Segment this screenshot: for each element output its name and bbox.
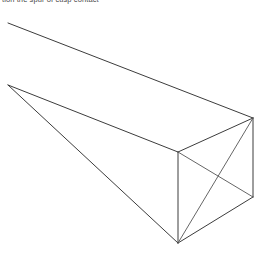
receding-edges xyxy=(8,23,253,243)
end-face-lower-right-edge xyxy=(178,197,253,243)
middle-receding-edge xyxy=(8,85,178,152)
end-face-diagonals xyxy=(178,118,253,243)
end-face-diagonal-a xyxy=(178,118,253,243)
lower-receding-edge xyxy=(8,85,178,243)
end-face-diagonal-b xyxy=(178,152,253,197)
end-face-upper-left-edge xyxy=(178,118,253,152)
top-receding-edge xyxy=(8,23,253,118)
prism-line-drawing xyxy=(0,0,262,264)
figure-page: tion the spur of cusp contact xyxy=(0,0,262,264)
